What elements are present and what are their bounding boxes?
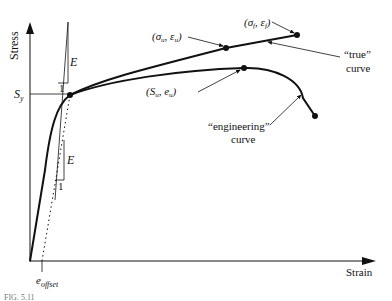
true-curve-label-line2: curve xyxy=(346,62,371,74)
true-uts-point xyxy=(223,45,229,51)
yield-stress-subscript: y xyxy=(19,94,24,103)
true-curve xyxy=(70,35,297,95)
offset-subscript: offset xyxy=(41,280,59,289)
true-fracture-leader xyxy=(272,22,294,33)
engineering-uts-point xyxy=(241,65,247,71)
engineering-curve-leader xyxy=(270,95,301,125)
x-axis-arrow-icon xyxy=(362,257,376,265)
y-axis-arrow-icon xyxy=(26,22,34,34)
true-curve-label-line1: “true” xyxy=(344,48,371,60)
y-axis xyxy=(26,22,34,262)
yield-stress-label: Sy xyxy=(14,87,24,103)
x-axis xyxy=(30,257,376,265)
x-axis-label: Strain xyxy=(346,266,373,278)
offset-label: eoffset xyxy=(36,274,59,289)
true-uts-label: (σu, εu) xyxy=(152,30,182,44)
modulus-run-bottom: 1 xyxy=(58,180,64,192)
figure-caption-partial: FIG. 5.11 xyxy=(4,293,35,301)
engineering-fracture-point xyxy=(312,113,318,119)
y-axis-label: Stress xyxy=(7,31,21,60)
engineering-curve-label-line2: curve xyxy=(231,133,256,145)
engineering-uts-leader xyxy=(198,70,240,92)
true-fracture-label: (σf, εf) xyxy=(244,16,271,30)
yield-point xyxy=(67,92,73,98)
stress-strain-diagram: Stress Strain Sy E 1 E 1 eoffset (σu, εu… xyxy=(0,0,392,301)
engineering-curve-label-line1: “engineering” xyxy=(208,120,270,132)
offset-line xyxy=(42,95,70,261)
modulus-label-top: E xyxy=(69,55,78,69)
engineering-uts-label: (Su, eu) xyxy=(146,85,177,99)
modulus-label-bottom: E xyxy=(66,153,75,167)
true-fracture-point xyxy=(294,32,300,38)
modulus-run-top: 1 xyxy=(59,82,65,94)
true-curve-leader xyxy=(268,42,340,57)
true-uts-leader xyxy=(188,37,223,46)
